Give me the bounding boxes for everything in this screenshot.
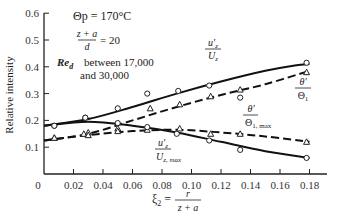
- svg-text:d: d: [85, 41, 91, 52]
- svg-text:Red: Red: [56, 56, 74, 71]
- svg-text:Uz: Uz: [208, 50, 218, 63]
- circle-marker: [174, 131, 179, 136]
- label-uz-over-Uzmax: u'z Uz, max: [155, 137, 182, 164]
- svg-text:Θ1: Θ1: [298, 90, 309, 103]
- y-tick-label: 0.6: [25, 7, 39, 19]
- circle-marker: [304, 60, 309, 65]
- circle-marker: [145, 91, 150, 96]
- svg-text:θ': θ': [247, 103, 255, 114]
- circle-marker: [238, 147, 243, 152]
- circle-marker: [238, 95, 243, 100]
- triangle-marker: [208, 93, 214, 99]
- circle-marker: [304, 155, 309, 160]
- y-ticks: 0.10.20.30.40.50.6: [25, 7, 49, 153]
- label-theta-over-Theta1: θ' Θ1: [295, 76, 311, 103]
- x-tick-label: 0.04: [93, 179, 113, 191]
- circle-marker: [207, 138, 212, 143]
- label-uz-over-Uz: u'z Uz: [205, 37, 221, 63]
- label-theta-over-Theta1max: θ' Θ1, max: [243, 103, 272, 130]
- svg-text:r: r: [186, 188, 190, 199]
- x-tick-label: 0.16: [270, 179, 290, 191]
- y-tick-label: 0.2: [25, 114, 39, 126]
- svg-text:between 17,000: between 17,000: [84, 56, 154, 68]
- svg-text:θ': θ': [299, 76, 307, 87]
- svg-text:u'z: u'z: [208, 37, 218, 50]
- x-tick-label: 0: [35, 179, 41, 191]
- svg-text:Θp = 170°C: Θp = 170°C: [73, 9, 131, 23]
- x-tick-label: 0.06: [123, 179, 143, 191]
- svg-text:= 20: = 20: [100, 34, 120, 46]
- svg-text:u'z: u'z: [158, 137, 168, 150]
- circle-marker: [115, 106, 120, 111]
- circle-marker: [83, 115, 88, 120]
- y-tick-label: 0.4: [25, 61, 39, 73]
- circle-marker: [145, 125, 150, 130]
- svg-text:z + a: z + a: [76, 28, 98, 39]
- y-tick-label: 0.5: [25, 34, 39, 46]
- x-tick-label: 0.18: [300, 179, 320, 191]
- x-tick-label: 0.08: [152, 179, 172, 191]
- y-axis-label: Relative intensity: [3, 56, 15, 134]
- svg-text:and 30,000: and 30,000: [80, 69, 129, 81]
- triangle-marker: [177, 101, 183, 107]
- triangle-marker: [177, 125, 183, 131]
- x-tick-label: 0.10: [182, 179, 202, 191]
- circle-marker: [207, 83, 212, 88]
- circle-marker: [115, 120, 120, 125]
- conditions-annotation: Θp = 170°C z + a d = 20 Red between 17,0…: [56, 9, 154, 81]
- y-tick-label: 0.1: [25, 141, 39, 153]
- y-tick-label: 0.3: [25, 88, 39, 100]
- chart: 0.10.20.30.40.50.6 00.020.040.060.080.10…: [0, 0, 343, 219]
- svg-text:ξ2 =: ξ2 =: [152, 192, 171, 208]
- triangle-marker: [147, 105, 153, 111]
- circle-marker: [176, 88, 181, 93]
- triangle-marker: [51, 135, 57, 141]
- svg-text:z + a: z + a: [177, 202, 199, 213]
- x-ticks: 00.020.040.060.080.100.120.140.160.18: [35, 169, 319, 191]
- svg-text:Uz, max: Uz, max: [156, 151, 182, 164]
- x-axis-label: ξ2 = r z + a: [152, 188, 201, 213]
- x-tick-label: 0.12: [211, 179, 230, 191]
- x-tick-label: 0.02: [64, 179, 83, 191]
- svg-text:Θ1, max: Θ1, max: [245, 117, 272, 130]
- circle-marker: [52, 123, 57, 128]
- x-tick-label: 0.14: [241, 179, 261, 191]
